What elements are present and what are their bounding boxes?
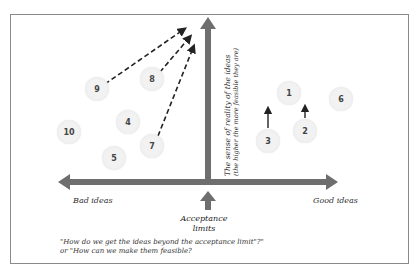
bad-ideas-label: Bad ideas <box>73 196 113 205</box>
caption-line2: or "How can we make them feasible? <box>60 247 264 256</box>
idea-circle-3: 3 <box>256 129 280 153</box>
idea-circle-4: 4 <box>116 110 140 134</box>
vertical-axis <box>200 17 216 182</box>
y-axis-label: The sense of reality of the ideas (the h… <box>223 48 241 176</box>
acceptance-line2: limits <box>176 224 232 234</box>
acceptance-limits-label: Acceptance limits <box>176 214 232 234</box>
acceptance-line1: Acceptance <box>176 214 232 224</box>
left-arrowhead-icon <box>58 174 70 190</box>
idea-circle-9: 9 <box>85 77 109 101</box>
up-arrowhead-icon <box>200 17 216 29</box>
right-arrowhead-icon <box>326 174 338 190</box>
caption: "How do we get the ideas beyond the acce… <box>60 238 264 256</box>
idea-circle-8: 8 <box>140 67 164 91</box>
idea-circle-10: 10 <box>57 120 81 144</box>
idea-circle-6: 6 <box>329 87 353 111</box>
idea-circle-7: 7 <box>140 134 164 158</box>
acceptance-arrow-icon <box>200 191 216 210</box>
idea-circle-5: 5 <box>102 146 126 170</box>
horizontal-axis <box>58 174 338 190</box>
idea-circle-1: 1 <box>277 81 301 105</box>
y-axis-label-line1: The sense of reality of the ideas <box>223 48 232 176</box>
idea-circle-2: 2 <box>293 119 317 143</box>
caption-line1: "How do we get the ideas beyond the acce… <box>60 238 264 247</box>
y-axis-label-line2: (the higher the more feasible they are) <box>232 48 241 176</box>
good-ideas-label: Good ideas <box>313 196 358 205</box>
